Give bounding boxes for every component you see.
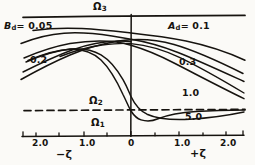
x-axis-line [22,135,244,136]
x-tick-label-minus-2: 2.0 [32,139,49,148]
x-axis-label-negative: −ζ [56,149,72,160]
omega1-label: Ω1 [91,118,105,128]
x-tick-label-zero: 0 [128,139,134,148]
curve-label-50: 5.0 [185,112,202,122]
ad-parameter-label: Ad= 0.1 [168,21,210,32]
figure-panel: Ω3 Bd= 0.05 Ad= 0.1 0.2 0.3 1.0 5.0 Ω2 Ω… [0,0,255,165]
curve-label-03: 0.3 [179,57,196,67]
curve-bd-03 [24,41,244,99]
omega3-reference-line [23,15,245,17]
x-tick-label-minus-1: 1.0 [79,139,96,148]
omega2-label: Ω2 [89,96,103,106]
curve-label-02: 0.2 [30,55,47,65]
x-tick-label-plus-1: 1.0 [174,139,191,148]
omega3-label: Ω3 [93,2,107,12]
x-axis-label-positive: +ζ [190,148,206,159]
bd-parameter-label: Bd= 0.05 [4,21,52,32]
curve-label-10: 1.0 [182,88,199,98]
x-tick-label-plus-2: 2.0 [220,139,237,148]
